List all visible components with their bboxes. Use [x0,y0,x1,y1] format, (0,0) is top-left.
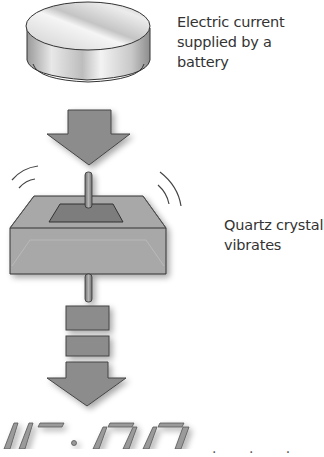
battery-label-line2: supplied by a battery [177,32,324,72]
digital-display [4,423,189,449]
arrow-down-icon [47,110,130,165]
battery-label: Electric current supplied by a battery [177,12,324,72]
quartz-label-line1: Quartz crystal [224,215,323,235]
arrow-down-icon-2 [47,362,126,406]
quartz-label-line2: vibrates [224,235,323,255]
battery-icon [26,2,150,82]
quartz-label: Quartz crystal vibrates [224,215,323,255]
quartz-crystal-icon [10,172,166,302]
display-label-partial: . . . [212,438,304,457]
battery-label-line1: Electric current [177,12,324,32]
signal-blocks-icon [66,306,109,356]
